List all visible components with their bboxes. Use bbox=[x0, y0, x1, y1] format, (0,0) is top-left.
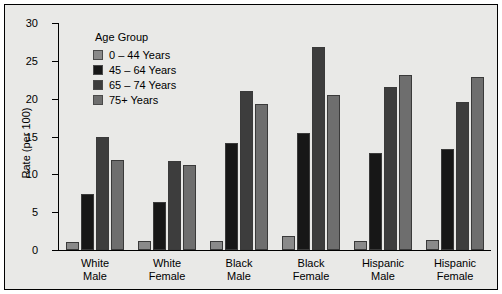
legend-item: 45 – 64 Years bbox=[93, 63, 223, 77]
y-tick-label: 25 bbox=[0, 55, 38, 67]
bar bbox=[183, 165, 197, 251]
bar bbox=[354, 241, 368, 250]
bar bbox=[471, 77, 485, 250]
y-tick-label: 15 bbox=[0, 131, 38, 143]
y-tick-mark bbox=[52, 174, 58, 175]
legend-swatch-icon bbox=[93, 65, 103, 75]
y-tick-mark bbox=[52, 61, 58, 62]
x-axis-category-label: White Female bbox=[131, 257, 203, 283]
y-tick-mark bbox=[52, 99, 58, 100]
bar bbox=[210, 241, 224, 250]
legend-item-label: 75+ Years bbox=[109, 94, 158, 106]
legend-item: 75+ Years bbox=[93, 93, 223, 107]
bar bbox=[384, 87, 398, 250]
bar bbox=[369, 153, 383, 250]
y-tick-mark bbox=[52, 212, 58, 213]
x-axis-line bbox=[58, 250, 491, 251]
x-axis-category-label: Black Male bbox=[203, 257, 275, 283]
bar bbox=[111, 160, 125, 250]
bar bbox=[153, 202, 167, 250]
y-tick-label: 5 bbox=[0, 206, 38, 218]
bar bbox=[96, 137, 110, 250]
legend-swatch-icon bbox=[93, 80, 103, 90]
y-tick-label: 20 bbox=[0, 93, 38, 105]
bar-group bbox=[275, 23, 347, 250]
bar-group bbox=[419, 23, 491, 250]
figure-border: Rate (per 100) 051015202530 White MaleWh… bbox=[4, 4, 498, 290]
legend-swatch-icon bbox=[93, 95, 103, 105]
bar bbox=[456, 102, 470, 250]
bar bbox=[81, 194, 95, 250]
bar bbox=[312, 47, 326, 250]
bar bbox=[399, 75, 413, 250]
legend: Age Group 0 – 44 Years45 – 64 Years65 – … bbox=[93, 31, 223, 108]
legend-swatch-icon bbox=[93, 50, 103, 60]
x-axis-category-label: Hispanic Female bbox=[419, 257, 491, 283]
bar bbox=[327, 95, 341, 250]
legend-item: 65 – 74 Years bbox=[93, 78, 223, 92]
y-tick-label: 30 bbox=[0, 17, 38, 29]
y-tick-label: 0 bbox=[0, 244, 38, 256]
x-axis-category-label: White Male bbox=[59, 257, 131, 283]
bar bbox=[255, 104, 269, 250]
bar bbox=[282, 236, 296, 250]
legend-title: Age Group bbox=[95, 31, 223, 43]
bar bbox=[225, 143, 239, 250]
legend-item: 0 – 44 Years bbox=[93, 48, 223, 62]
y-tick-mark bbox=[52, 23, 58, 24]
bar bbox=[168, 161, 182, 250]
bar bbox=[138, 241, 152, 250]
bar bbox=[297, 133, 311, 250]
legend-item-label: 65 – 74 Years bbox=[109, 79, 176, 91]
y-tick-label: 10 bbox=[0, 168, 38, 180]
bar bbox=[426, 240, 440, 250]
x-axis-category-label: Black Female bbox=[275, 257, 347, 283]
chart-figure: Rate (per 100) 051015202530 White MaleWh… bbox=[0, 0, 502, 294]
bar bbox=[240, 91, 254, 250]
y-tick-mark bbox=[52, 137, 58, 138]
legend-entries: 0 – 44 Years45 – 64 Years65 – 74 Years75… bbox=[93, 48, 223, 107]
bar bbox=[441, 149, 455, 250]
bar bbox=[66, 242, 80, 250]
bar-group bbox=[347, 23, 419, 250]
legend-item-label: 0 – 44 Years bbox=[109, 49, 170, 61]
legend-item-label: 45 – 64 Years bbox=[109, 64, 176, 76]
x-axis-category-label: Hispanic Male bbox=[347, 257, 419, 283]
y-tick-mark bbox=[52, 250, 58, 251]
